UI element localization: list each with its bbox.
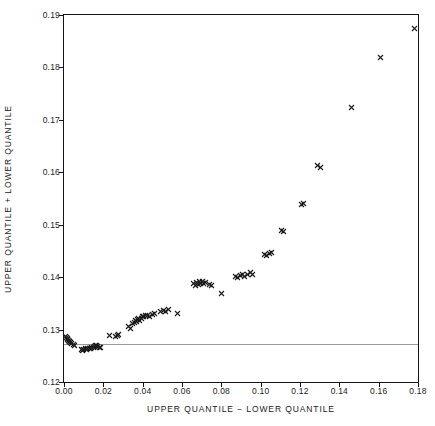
data-point-marker <box>68 340 75 347</box>
data-point-marker <box>125 323 132 330</box>
data-point-marker <box>140 313 147 320</box>
data-point-marker <box>64 335 71 342</box>
data-point-marker <box>149 311 156 318</box>
data-point-marker <box>174 310 181 317</box>
data-point-marker <box>114 332 121 339</box>
data-point-marker <box>348 104 355 111</box>
x-tick-label: 0.10 <box>252 386 269 396</box>
y-tick-label: 0.17 <box>43 115 60 125</box>
data-point-marker <box>142 312 149 319</box>
y-tick-label: 0.16 <box>43 167 60 177</box>
data-point-marker <box>278 227 285 234</box>
plot-frame: 0.120.130.140.150.160.170.180.190.000.02… <box>63 14 419 383</box>
data-point-marker <box>138 315 145 322</box>
data-point-marker <box>239 271 246 278</box>
data-point-marker <box>206 281 213 288</box>
data-point-marker <box>78 346 85 353</box>
data-point-marker <box>127 325 134 332</box>
data-point-marker <box>268 249 275 256</box>
data-point-marker <box>377 54 384 61</box>
data-point-marker <box>202 279 209 286</box>
data-point-marker <box>64 334 70 341</box>
data-point-marker <box>165 306 172 313</box>
data-point-marker <box>97 344 104 351</box>
data-point-marker <box>83 346 90 353</box>
data-point-marker <box>144 312 151 319</box>
data-point-marker <box>244 271 251 278</box>
data-point-marker <box>200 280 207 287</box>
data-point-marker <box>93 342 100 349</box>
y-axis-title-text: UPPER QUANTILE + LOWER QUANTILE <box>3 105 13 293</box>
data-point-marker <box>157 308 164 315</box>
reference-line <box>64 344 418 345</box>
data-point-marker <box>199 278 206 285</box>
x-tick-label: 0.14 <box>331 386 348 396</box>
y-tick-label: 0.19 <box>43 10 60 20</box>
data-point-marker <box>151 310 158 317</box>
plot-area <box>64 15 418 382</box>
data-point-marker <box>190 280 197 287</box>
data-point-marker <box>132 317 139 324</box>
data-point-marker <box>112 333 119 340</box>
data-point-marker <box>232 273 239 280</box>
data-point-marker <box>280 228 287 235</box>
data-point-marker <box>79 347 86 354</box>
data-point-marker <box>106 332 113 339</box>
data-point-marker <box>64 333 69 340</box>
data-point-marker <box>300 200 307 207</box>
y-tick-label: 0.13 <box>43 325 60 335</box>
data-point-marker <box>133 318 140 325</box>
data-point-marker <box>86 345 93 352</box>
data-point-marker <box>87 345 94 352</box>
data-point-marker <box>192 282 199 289</box>
y-tick-label: 0.14 <box>43 272 60 282</box>
x-tick-label: 0.06 <box>173 386 190 396</box>
data-point-marker <box>162 308 169 315</box>
y-tick-label: 0.15 <box>43 220 60 230</box>
data-point-marker <box>160 307 167 314</box>
data-point-marker <box>317 164 324 171</box>
data-point-marker <box>129 320 136 327</box>
data-point-marker <box>314 162 321 169</box>
data-point-marker <box>411 25 418 32</box>
data-point-marker <box>65 337 72 344</box>
data-point-marker <box>131 319 138 326</box>
data-point-marker <box>146 313 153 320</box>
x-tick-label: 0.18 <box>409 386 426 396</box>
data-point-marker <box>82 345 89 352</box>
data-point-marker <box>208 282 215 289</box>
data-point-marker <box>249 271 256 278</box>
x-tick-label: 0.08 <box>213 386 230 396</box>
x-tick-label: 0.02 <box>95 386 112 396</box>
data-point-marker <box>71 342 78 349</box>
x-tick-label: 0.00 <box>55 386 72 396</box>
data-point-marker <box>241 273 248 280</box>
data-point-marker <box>247 269 254 276</box>
data-point-marker <box>237 272 244 279</box>
data-point-marker <box>266 250 273 257</box>
x-tick-label: 0.12 <box>291 386 308 396</box>
y-axis-title: UPPER QUANTILE + LOWER QUANTILE <box>0 14 16 383</box>
x-tick-label: 0.16 <box>370 386 387 396</box>
data-point-marker <box>115 331 122 338</box>
y-tick-label: 0.18 <box>43 62 60 72</box>
data-point-marker <box>84 345 91 352</box>
scatter-plot-figure: UPPER QUANTILE + LOWER QUANTILE 0.120.13… <box>0 0 435 426</box>
data-point-marker <box>135 315 142 322</box>
data-point-marker <box>261 251 268 258</box>
data-point-marker <box>234 274 241 281</box>
data-point-marker <box>80 346 87 353</box>
data-point-marker <box>263 252 270 259</box>
data-point-marker <box>139 313 146 320</box>
data-point-marker <box>196 278 203 285</box>
x-tick-label: 0.04 <box>134 386 151 396</box>
data-point-marker <box>197 280 204 287</box>
x-axis-title: UPPER QUANTILE − LOWER QUANTILE <box>63 404 419 414</box>
data-point-marker <box>195 281 202 288</box>
data-point-marker <box>64 336 71 343</box>
data-point-marker <box>218 290 225 297</box>
data-point-marker <box>136 317 143 324</box>
data-point-marker <box>298 201 305 208</box>
data-point-marker <box>88 344 95 351</box>
data-point-marker <box>193 279 200 286</box>
